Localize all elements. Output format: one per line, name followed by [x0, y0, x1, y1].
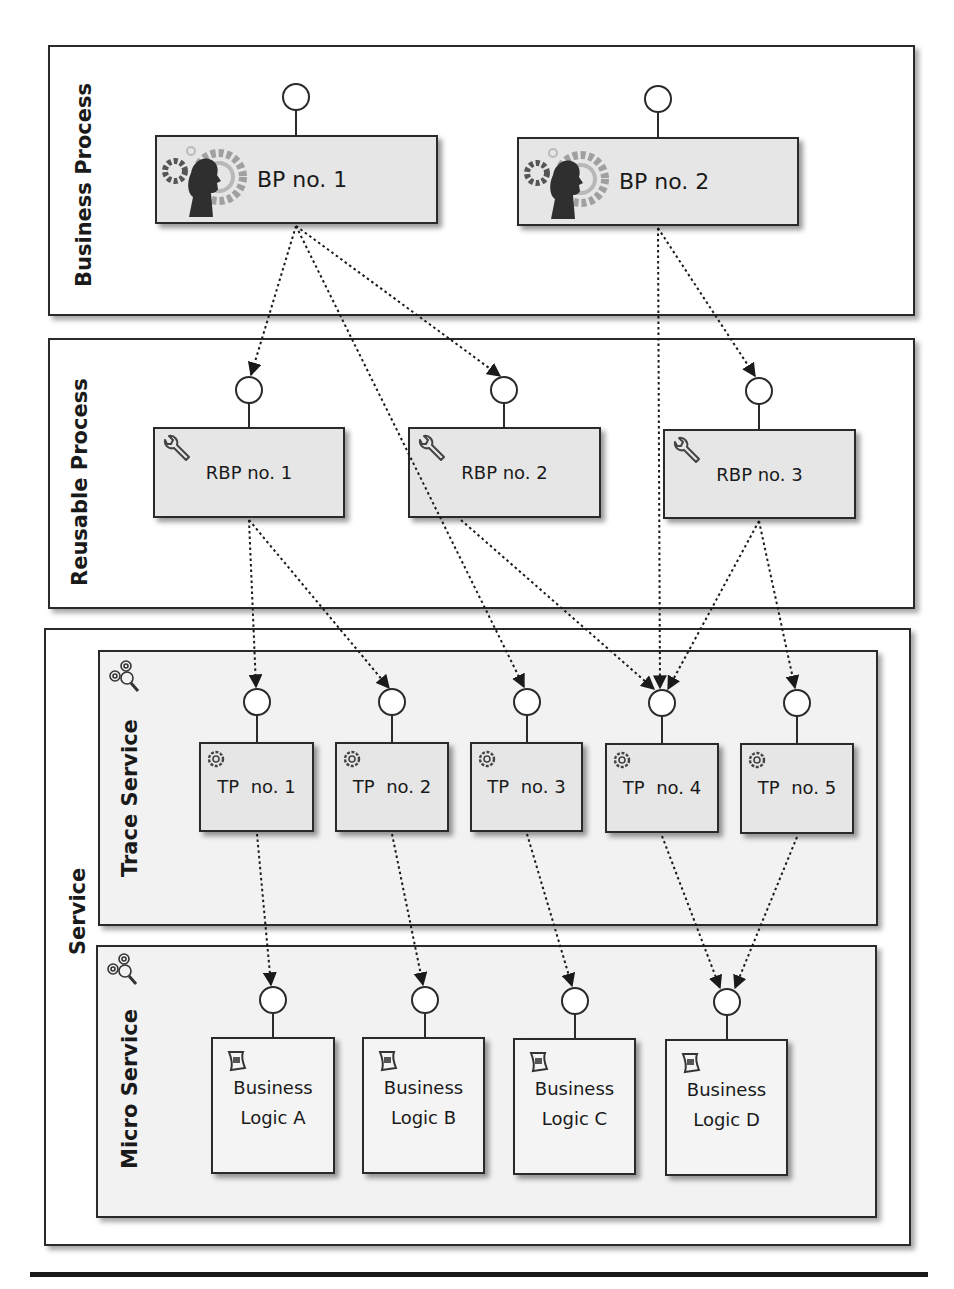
- node-label: TP no. 1: [201, 776, 312, 797]
- person-gear-icon: [523, 145, 611, 225]
- node-label: TP no. 3: [472, 776, 581, 797]
- node-label-line2: Logic B: [364, 1103, 483, 1133]
- node-label: TP no. 5: [742, 777, 852, 798]
- node-label: RBP no. 1: [155, 462, 343, 483]
- node-business-logic-a[interactable]: Business Logic A: [211, 1037, 335, 1174]
- lane-title-service: Service: [66, 868, 90, 955]
- node-label: RBP no. 3: [665, 464, 854, 485]
- gear-icon: [476, 748, 498, 774]
- lane-title-trace-service: Trace Service: [118, 719, 142, 877]
- gears-magnifier-icon: [106, 658, 142, 702]
- node-rbp-2[interactable]: RBP no. 2: [408, 427, 601, 518]
- node-tp-2[interactable]: TP no. 2: [335, 742, 449, 832]
- lane-title-business-process: Business Process: [72, 83, 96, 287]
- node-label-line2: Logic A: [213, 1103, 333, 1133]
- node-bp-2[interactable]: BP no. 2: [517, 137, 799, 226]
- gear-icon: [205, 748, 227, 774]
- node-tp-1[interactable]: TP no. 1: [199, 742, 314, 832]
- lane-title-micro-service: Micro Service: [118, 1009, 142, 1169]
- node-tp-4[interactable]: TP no. 4: [605, 743, 719, 833]
- node-label-line1: Business: [213, 1073, 333, 1103]
- node-tp-5[interactable]: TP no. 5: [740, 743, 854, 834]
- node-label: BP no. 1: [257, 167, 347, 192]
- node-label: BP no. 2: [619, 169, 709, 194]
- person-gear-icon: [161, 143, 249, 223]
- node-label-line2: Logic D: [667, 1105, 786, 1135]
- page-divider-rule: [30, 1272, 928, 1277]
- node-business-logic-c[interactable]: Business Logic C: [513, 1038, 636, 1175]
- node-label-line1: Business: [515, 1074, 634, 1104]
- gear-icon: [746, 749, 768, 775]
- node-bp-1[interactable]: BP no. 1: [155, 135, 438, 224]
- node-rbp-3[interactable]: RBP no. 3: [663, 429, 856, 519]
- lane-title-reusable-process: Reusable Process: [68, 378, 92, 586]
- node-business-logic-d[interactable]: Business Logic D: [665, 1039, 788, 1176]
- gear-icon: [341, 748, 363, 774]
- node-rbp-1[interactable]: RBP no. 1: [153, 427, 345, 518]
- node-label: RBP no. 2: [410, 462, 599, 483]
- node-label: TP no. 2: [337, 776, 447, 797]
- node-label-line2: Logic C: [515, 1104, 634, 1134]
- node-label: TP no. 4: [607, 777, 717, 798]
- node-label-line1: Business: [364, 1073, 483, 1103]
- gears-magnifier-icon: [104, 951, 140, 995]
- gear-icon: [611, 749, 633, 775]
- node-tp-3[interactable]: TP no. 3: [470, 742, 583, 832]
- node-label-line1: Business: [667, 1075, 786, 1105]
- node-business-logic-b[interactable]: Business Logic B: [362, 1037, 485, 1174]
